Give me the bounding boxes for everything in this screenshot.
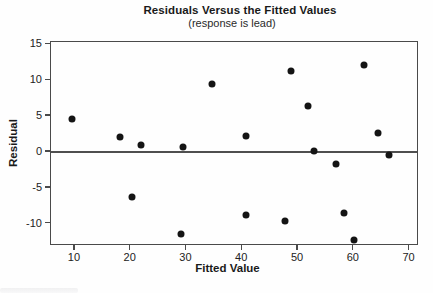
data-point	[351, 237, 358, 244]
residual-plot-figure: Residuals Versus the Fitted Values (resp…	[0, 0, 433, 293]
x-axis-tick	[241, 245, 242, 250]
y-axis-tick-label: -10	[10, 217, 42, 229]
y-axis-tick	[45, 43, 50, 44]
x-axis-tick	[352, 245, 353, 250]
y-axis-tick	[45, 79, 50, 80]
x-axis-tick-label: 10	[58, 251, 90, 263]
x-axis-tick	[408, 245, 409, 250]
y-axis-tick	[45, 186, 50, 187]
data-point	[386, 151, 393, 158]
y-axis-tick	[45, 150, 50, 151]
y-axis-tick-label: 0	[10, 145, 42, 157]
data-point	[332, 161, 339, 168]
data-point	[361, 62, 368, 69]
data-point	[341, 209, 348, 216]
y-axis-tick-label: 10	[10, 73, 42, 85]
x-axis-tick-label: 40	[225, 251, 257, 263]
x-axis-tick	[296, 245, 297, 250]
scan-artifact	[0, 288, 78, 293]
y-axis-tick	[45, 114, 50, 115]
x-axis-tick-label: 50	[281, 251, 313, 263]
data-point	[242, 212, 249, 219]
y-axis-tick-label: 5	[10, 109, 42, 121]
data-point	[178, 230, 185, 237]
plot-area	[50, 41, 418, 246]
data-point	[281, 217, 288, 224]
x-axis-tick	[129, 245, 130, 250]
x-axis-tick-label: 20	[114, 251, 146, 263]
data-point	[310, 148, 317, 155]
data-point	[305, 103, 312, 110]
x-axis-tick	[73, 245, 74, 250]
zero-reference-line	[51, 151, 417, 152]
x-axis-tick-label: 70	[393, 251, 425, 263]
data-point	[208, 80, 215, 87]
x-axis-tick	[185, 245, 186, 250]
data-point	[116, 133, 123, 140]
data-point	[69, 115, 76, 122]
data-point	[179, 143, 186, 150]
x-axis-tick-label: 60	[337, 251, 369, 263]
x-axis-title: Fitted Value	[167, 262, 288, 274]
chart-subtitle: (response is lead)	[48, 17, 416, 29]
data-point	[288, 67, 295, 74]
y-axis-tick	[45, 222, 50, 223]
data-point	[374, 129, 381, 136]
data-point	[242, 133, 249, 140]
data-point	[128, 194, 135, 201]
chart-title: Residuals Versus the Fitted Values	[56, 4, 424, 16]
y-axis-tick-label: -5	[10, 181, 42, 193]
x-axis-tick-label: 30	[169, 251, 201, 263]
y-axis-tick-label: 15	[10, 37, 42, 49]
data-point	[138, 141, 145, 148]
